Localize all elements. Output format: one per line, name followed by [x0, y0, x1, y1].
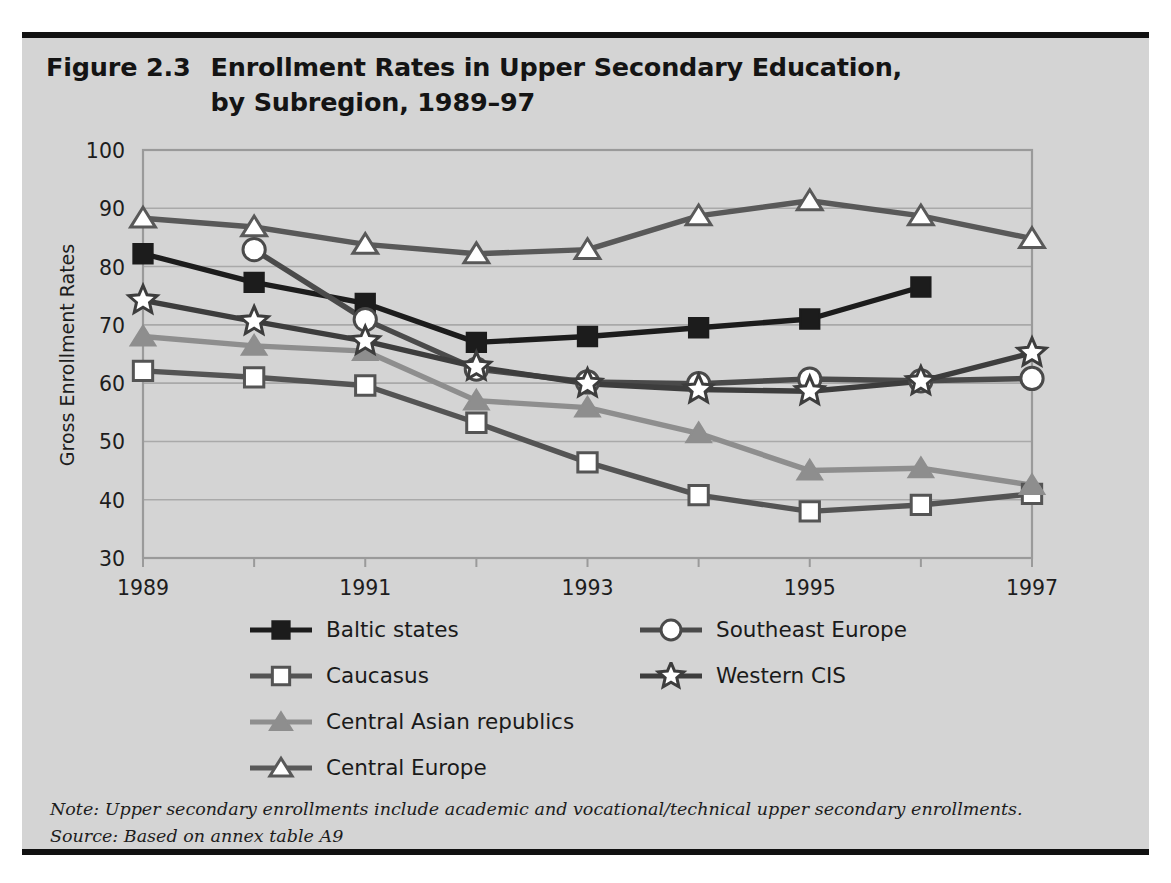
- open-star-marker: [907, 366, 935, 393]
- x-axis-tick-label: 1989: [117, 576, 169, 600]
- open-square-marker: [689, 485, 708, 504]
- legend-item[interactable]: Southeast Europe: [638, 612, 907, 647]
- x-axis-tick-marks: [143, 558, 1032, 567]
- y-axis-tick-label: 100: [86, 139, 125, 163]
- x-axis-tick-label: 1995: [784, 576, 836, 600]
- legend-marker-svg: [248, 708, 314, 736]
- open-circle-marker: [1021, 367, 1043, 389]
- legend-item[interactable]: Caucasus: [248, 658, 574, 693]
- open-square-marker: [578, 453, 597, 472]
- legend-item-label: Western CIS: [716, 663, 846, 688]
- filled-square-marker: [133, 244, 152, 263]
- legend-swatch: [248, 754, 314, 782]
- legend-item[interactable]: Western CIS: [638, 658, 907, 693]
- legend-item-label: Central Asian republics: [326, 709, 574, 734]
- x-axis-tick-label: 1991: [339, 576, 391, 600]
- open-square-marker: [356, 376, 375, 395]
- legend-marker-svg: [248, 754, 314, 782]
- legend-item[interactable]: Central Europe: [248, 750, 574, 785]
- note-text: Note: Upper secondary enrollments includ…: [50, 796, 1110, 823]
- y-axis-tick-label: 30: [99, 547, 125, 571]
- legend-item[interactable]: Central Asian republics: [248, 704, 574, 739]
- filled-square-marker: [578, 327, 597, 346]
- legend-item-label: Central Europe: [326, 755, 487, 780]
- legend-swatch: [248, 616, 314, 644]
- open-square-marker: [911, 495, 930, 514]
- legend-column-left: Baltic statesCaucasusCentral Asian repub…: [248, 612, 574, 796]
- y-axis-tick-label: 70: [99, 314, 125, 338]
- source-text: Source: Based on annex table A9: [50, 823, 1110, 850]
- filled-square-marker: [272, 621, 289, 638]
- legend-item[interactable]: Baltic states: [248, 612, 574, 647]
- legend-swatch: [248, 662, 314, 690]
- open-square-marker: [467, 413, 486, 432]
- legend-marker-svg: [248, 662, 314, 690]
- y-axis-tick-label: 80: [99, 256, 125, 280]
- legend-item-label: Caucasus: [326, 663, 429, 688]
- plot-area: 30405060708090100 19891991199319951997 G…: [0, 0, 1171, 883]
- open-square-marker: [272, 667, 289, 684]
- filled-square-marker: [689, 318, 708, 337]
- filled-square-marker: [244, 273, 263, 292]
- x-axis-tick-label: 1997: [1006, 576, 1058, 600]
- open-star-marker: [1018, 338, 1046, 365]
- open-square-marker: [800, 502, 819, 521]
- y-axis-tick-label: 60: [99, 372, 125, 396]
- open-circle-marker: [243, 239, 265, 261]
- series-markers: [129, 190, 1046, 521]
- open-square-marker: [133, 361, 152, 380]
- y-axis-tick-label: 40: [99, 489, 125, 513]
- y-axis-tick-label: 90: [99, 197, 125, 221]
- legend-item-label: Southeast Europe: [716, 617, 907, 642]
- legend-swatch: [638, 616, 704, 644]
- y-axis-title: Gross Enrollment Rates: [56, 244, 78, 466]
- figure-container: Figure 2.3 Enrollment Rates in Upper Sec…: [0, 0, 1171, 883]
- open-circle-marker: [661, 620, 681, 640]
- y-axis-tick-label: 50: [99, 430, 125, 454]
- filled-square-marker: [800, 309, 819, 328]
- footnotes: Note: Upper secondary enrollments includ…: [50, 796, 1110, 850]
- legend-swatch: [638, 662, 704, 690]
- open-star-marker: [129, 285, 157, 312]
- legend-marker-svg: [248, 616, 314, 644]
- legend-marker-svg: [638, 662, 704, 690]
- filled-square-marker: [911, 277, 930, 296]
- legend-column-right: Southeast EuropeWestern CIS: [638, 612, 907, 704]
- x-axis-tick-label: 1993: [561, 576, 613, 600]
- open-star-marker: [658, 662, 683, 686]
- x-axis-tick-labels: 19891991199319951997: [117, 576, 1058, 600]
- y-axis-tick-labels: 30405060708090100: [86, 139, 125, 571]
- legend-item-label: Baltic states: [326, 617, 459, 642]
- legend-swatch: [248, 708, 314, 736]
- open-square-marker: [244, 368, 263, 387]
- line-chart-svg: 30405060708090100 19891991199319951997 G…: [0, 0, 1171, 883]
- open-star-marker: [240, 306, 268, 333]
- open-star-marker: [573, 369, 601, 396]
- legend-marker-svg: [638, 616, 704, 644]
